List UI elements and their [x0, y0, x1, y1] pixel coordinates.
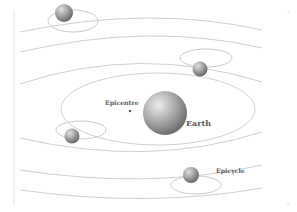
earth-label: Earth — [186, 118, 211, 128]
orbit-arc-6 — [20, 188, 262, 199]
geocentric-diagram: Epicentre Earth Epicycle 2 3 — [0, 0, 297, 212]
epicycles — [48, 10, 232, 194]
epicentre-label: Epicentre — [105, 99, 139, 107]
epicycle-upper-right — [180, 49, 232, 67]
corner-mark-bottom: 3 — [286, 201, 289, 207]
planet-upper-right — [193, 62, 208, 77]
epicycle-left — [56, 121, 106, 139]
orbit-arc-2 — [20, 36, 262, 52]
planet-top-left — [55, 4, 73, 22]
corner-mark-top: 2 — [287, 9, 290, 15]
planet-lower-right — [183, 167, 199, 183]
earth-sphere — [143, 91, 187, 135]
planet-left — [65, 129, 80, 144]
epicentre-point — [129, 110, 131, 112]
orbit-arc-1 — [20, 18, 262, 32]
epicycle-label: Epicycle — [216, 167, 245, 175]
